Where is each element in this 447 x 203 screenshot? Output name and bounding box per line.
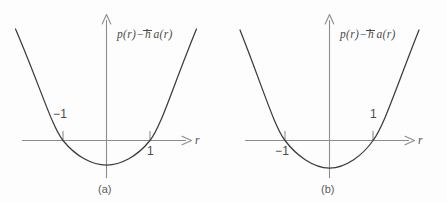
figure-two-panel-parabolas: −1 1 r p(r)−h a(r) (a) −1 1 r p(r)−: [0, 0, 447, 203]
tick-label-plus-one-b: 1: [370, 108, 377, 120]
hbar-symbol-b: h: [368, 29, 374, 41]
caption-b: (b): [321, 184, 334, 195]
x-axis-label-a: r: [195, 135, 199, 147]
panel-a: −1 1 r p(r)−h a(r) (a): [0, 0, 224, 203]
hbar-symbol-a: h: [145, 29, 151, 41]
formula-a-term-a: a(r): [154, 28, 173, 40]
tick-label-minus-one-a: −1: [53, 108, 67, 120]
panel-b-plot: [223, 0, 447, 203]
formula-a-term-b: a(r): [377, 28, 396, 40]
curve-annotation-a: p(r)−h a(r): [117, 29, 173, 41]
x-axis-label-b: r: [418, 135, 422, 147]
curve-annotation-b: p(r)−h a(r): [340, 29, 396, 41]
formula-p-term-a: p(r): [117, 28, 136, 40]
panel-b: −1 1 r p(r)−h a(r) (b): [223, 0, 447, 203]
caption-a: (a): [98, 184, 111, 195]
formula-p-term-b: p(r): [340, 28, 359, 40]
tick-label-minus-one-b: −1: [275, 145, 289, 157]
tick-label-plus-one-a: 1: [147, 145, 154, 157]
panel-a-plot: [0, 0, 224, 203]
